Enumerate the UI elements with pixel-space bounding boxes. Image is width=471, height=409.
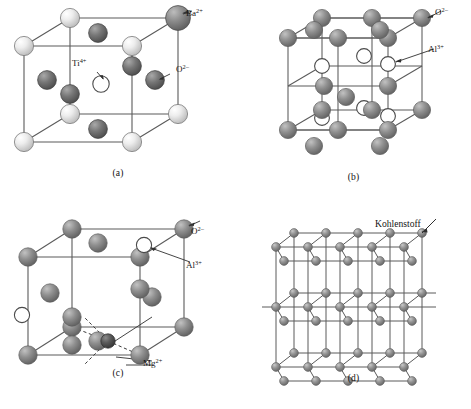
panel-c-mgal2o4: O2– Al3+ Mg2+ (c): [0, 205, 236, 409]
magnesium-site-c: [101, 334, 115, 348]
panel-c-o-label: O2–: [191, 225, 205, 236]
panel-a-ba-label: Ba2+: [186, 7, 203, 18]
panel-d-carbon-label: Kohlenstoff: [375, 218, 421, 229]
panel-d-graphite: Kohlenstoff (d): [236, 205, 471, 409]
panel-b-al2o3: O2– Al3+ (b): [236, 0, 471, 205]
panel-a-batio3: Ba2+ Ti4+ O2– (a): [0, 0, 236, 205]
panel-a-o-label: O2–: [176, 63, 190, 74]
graphite-sheet-middle-d: [262, 289, 436, 326]
oxygen-layer-middle-b: [315, 77, 396, 105]
aluminium-sites-c: [14, 237, 151, 322]
figure-root: · · ·· · ·· ·: [0, 0, 471, 409]
panel-a-caption: (a): [0, 168, 236, 178]
panel-c-mg-label: Mg2+: [143, 357, 163, 368]
panel-c-al-label: Al3+: [186, 259, 202, 270]
graphite-sheet-top-d: [272, 229, 427, 266]
panel-b-al-label: Al3+: [428, 43, 444, 54]
titanium-site-a: [93, 76, 109, 92]
graphite-sheets-d: [262, 229, 436, 386]
oxygen-layer-top-b: [279, 9, 430, 46]
panel-b-caption: (b): [236, 172, 471, 182]
panel-a-ti-label: Ti4+: [72, 57, 87, 68]
panel-c-diagram: O2– Al3+ Mg2+: [0, 205, 236, 409]
panel-b-o-label: O2–: [435, 6, 449, 17]
panel-d-caption: (d): [236, 373, 471, 383]
oxygen-layer-bottom-b: [279, 101, 430, 154]
panel-c-caption: (c): [0, 368, 236, 378]
